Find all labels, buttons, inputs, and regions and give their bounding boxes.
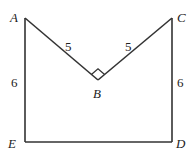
length-labels: 5 5 6 6 <box>11 39 184 90</box>
label-point-B: B <box>93 86 101 101</box>
point-labels: A C B E D <box>7 10 186 151</box>
pentagon-diagram: A C B E D 5 5 6 6 <box>0 0 195 155</box>
length-label-EA: 6 <box>11 75 18 90</box>
length-label-CD: 6 <box>177 75 184 90</box>
length-label-BC: 5 <box>125 39 132 54</box>
label-point-C: C <box>177 10 186 25</box>
edge-BC <box>98 18 172 80</box>
figure-edges <box>25 18 172 142</box>
right-angle-marker-icon <box>91 69 104 75</box>
length-label-AB: 5 <box>65 39 72 54</box>
label-point-A: A <box>9 10 18 25</box>
label-point-E: E <box>7 136 16 151</box>
edge-AB <box>25 18 98 80</box>
label-point-D: D <box>175 136 186 151</box>
